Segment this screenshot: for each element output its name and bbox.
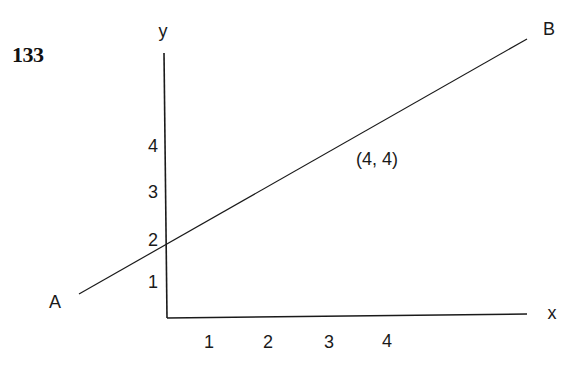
y-axis: [164, 53, 167, 318]
axes-and-line: [0, 0, 583, 368]
y-tick-2: 2: [148, 231, 158, 249]
point-annotation: (4, 4): [356, 150, 398, 168]
y-tick-3: 3: [148, 183, 158, 201]
x-axis: [167, 314, 527, 318]
point-label-a: A: [49, 293, 61, 311]
y-tick-1: 1: [148, 273, 158, 291]
x-axis-label: x: [548, 304, 557, 322]
point-label-b: B: [543, 20, 555, 38]
coordinate-figure: 133 y x A B (4, 4) 1 2 3 4 1 2 3 4: [0, 0, 583, 368]
x-tick-4: 4: [382, 332, 392, 350]
y-tick-4: 4: [148, 137, 158, 155]
x-tick-3: 3: [324, 333, 334, 351]
line-ab: [79, 39, 527, 294]
x-tick-1: 1: [204, 333, 214, 351]
x-tick-2: 2: [263, 333, 273, 351]
y-axis-label: y: [159, 22, 168, 40]
